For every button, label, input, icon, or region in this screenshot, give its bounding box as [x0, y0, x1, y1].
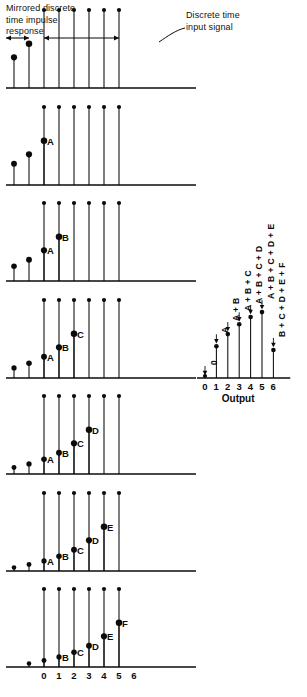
panel-1-input-stem-5-dot [117, 105, 121, 109]
panel-4-input-stem-4-dot [102, 394, 106, 398]
panel-6-ir-stem-3-dot [71, 649, 77, 655]
panel-1-ir-stem-5-dot [26, 151, 32, 157]
panel-3-input-stem-4-dot [102, 298, 106, 302]
output-tick-6: 6 [271, 381, 276, 392]
panel-2-input-stem-1-dot [57, 201, 61, 205]
panel-3-ir-stem-3-dot [26, 360, 32, 366]
panel-0-ir-stem-6-dot [26, 40, 33, 47]
panel-5-input-stem-5-dot [117, 491, 121, 495]
panel-6-input-stem-4-dot [102, 587, 106, 591]
panel-2-input-stem-0-dot [42, 201, 46, 205]
output-tick-0: 0 [202, 381, 207, 392]
panel-5-label-A: A [47, 556, 54, 567]
output-tick-3: 3 [236, 381, 241, 392]
panel-5-label-B: B [62, 551, 69, 562]
output-stem-1-dot [214, 344, 219, 349]
output-tick-4: 4 [248, 381, 253, 392]
panel-1-label-A: A [47, 136, 54, 147]
input-signal-caption: Discrete time input signal [186, 10, 296, 33]
output-arrow-head-1 [214, 339, 219, 343]
panel-1-input-stem-3-dot [87, 105, 91, 109]
panel-3-label-C: C [77, 329, 84, 340]
output-term-label-2: A + B [231, 297, 241, 321]
panel-5-ir-stem-1-dot [27, 562, 32, 567]
panel-1-input-stem-4-dot [102, 105, 106, 109]
panel-5-label-E: E [107, 522, 113, 533]
panel-0-ir-stem-5-dot [11, 54, 17, 60]
output-term-label-3: A + B + C [243, 270, 253, 311]
impulse-response-caption: Mirrored discrete time impulse response [6, 3, 124, 38]
panel-3-input-stem-2-dot [72, 298, 76, 302]
panel-1-ir-stem-4-dot [11, 161, 17, 167]
output-term-label-6: B + C + D + E + F [277, 262, 287, 337]
panel-4-ir-stem-2-dot [26, 461, 31, 466]
panel-6-label-F: F [122, 618, 128, 629]
panel-5-ir-stem-3-dot [56, 553, 62, 559]
output-term-label-0: 0 [209, 360, 219, 365]
panel-6-tick-0: 0 [41, 670, 46, 681]
output-stem-4-dot [248, 315, 253, 320]
output-tick-5: 5 [259, 381, 264, 392]
panel-5-input-stem-2-dot [72, 491, 76, 495]
panel-6-input-stem-2-dot [72, 587, 76, 591]
panel-4-ir-stem-1-dot [12, 465, 17, 470]
panel-5-ir-stem-2-dot [41, 558, 46, 563]
panel-6-tick-5: 5 [116, 670, 121, 681]
panel-1-input-stem-2-dot [72, 105, 76, 109]
panel-6-label-B: B [62, 652, 69, 663]
convolution-diagram: Mirrored discrete time impulse response … [0, 0, 307, 697]
output-tick-1: 1 [214, 381, 219, 392]
panel-4-label-A: A [47, 454, 54, 465]
output-arrow-head-0 [203, 371, 208, 375]
output-arrow-head-6 [271, 343, 276, 347]
panel-6-label-C: C [77, 647, 84, 658]
panel-6-input-stem-0-dot [42, 587, 46, 591]
panel-5-ir-stem-0-dot [12, 565, 17, 570]
output-tick-2: 2 [225, 381, 230, 392]
panel-5-input-stem-0-dot [42, 491, 46, 495]
output-stem-6-dot [271, 348, 276, 353]
panel-3-input-stem-1-dot [57, 298, 61, 302]
panel-2-input-stem-2-dot [72, 201, 76, 205]
panel-1-input-stem-1-dot [57, 105, 61, 109]
input-caption-leader [159, 28, 185, 42]
panel-4-input-stem-0-dot [42, 394, 46, 398]
panel-2-input-stem-4-dot [102, 201, 106, 205]
panel-6-tick-3: 3 [86, 670, 91, 681]
output-arrow-head-5 [260, 305, 265, 309]
panel-2-label-A: A [47, 245, 54, 256]
panel-4-label-D: D [92, 425, 99, 436]
panel-5-input-stem-1-dot [57, 491, 61, 495]
panel-4-input-stem-2-dot [72, 394, 76, 398]
panel-2-ir-stem-3-dot [11, 263, 17, 269]
panel-6-label-E: E [107, 631, 113, 642]
panel-3-ir-stem-2-dot [11, 365, 16, 370]
panel-4-input-stem-1-dot [57, 394, 61, 398]
panel-4-label-B: B [62, 448, 69, 459]
panel-6-tick-2: 2 [71, 670, 76, 681]
output-term-label-1: A [220, 327, 230, 334]
panel-6-input-stem-5-dot [117, 587, 121, 591]
panel-6-ir-stem-0-dot [27, 661, 32, 666]
output-term-label-4: A + B + C + D [254, 246, 264, 305]
panel-6-tick-4: 4 [101, 670, 106, 681]
panel-5-label-C: C [77, 545, 84, 556]
panel-1-input-stem-0-dot [42, 105, 46, 109]
output-term-label-5: A + B + C + D + E [266, 224, 276, 299]
panel-3-input-stem-0-dot [42, 298, 46, 302]
diagram-canvas [0, 0, 307, 697]
panel-6-label-D: D [92, 641, 99, 652]
panel-2-label-B: B [62, 232, 69, 243]
panel-4-ir-stem-3-dot [41, 456, 47, 462]
panel-6-input-stem-3-dot [87, 587, 91, 591]
panel-6-tick-6: 6 [131, 670, 136, 681]
panel-6-ir-stem-1-dot [42, 658, 47, 663]
panel-6-tick-1: 1 [56, 670, 61, 681]
output-axis-title: Output [222, 393, 255, 404]
panel-5-input-stem-3-dot [87, 491, 91, 495]
panel-6-ir-stem-2-dot [56, 654, 61, 659]
panel-3-input-stem-5-dot [117, 298, 121, 302]
panel-2-input-stem-3-dot [87, 201, 91, 205]
panel-4-input-stem-5-dot [117, 394, 121, 398]
panel-4-label-C: C [77, 438, 84, 449]
